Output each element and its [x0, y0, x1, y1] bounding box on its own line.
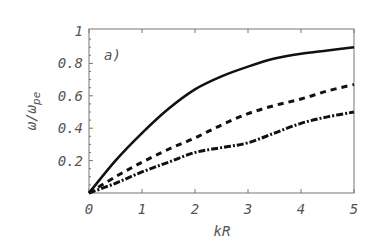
data-lines: [89, 47, 354, 193]
series-dash-dot: [89, 112, 354, 193]
y-tick-label: 1: [75, 23, 83, 39]
chart: 0123450.20.40.60.81 a) kR ω/ωpe: [0, 0, 381, 244]
x-tick-label: 0: [85, 201, 93, 217]
y-tick-label: 0.6: [58, 88, 83, 104]
x-tick-label: 3: [243, 201, 252, 217]
y-tick-label: 0.2: [58, 153, 83, 169]
x-tick-label: 1: [138, 201, 146, 217]
x-tick-label: 4: [297, 201, 305, 217]
x-axis-title: kR: [214, 223, 231, 239]
y-axis-title: ω/ωpe: [23, 91, 43, 130]
x-tick-label: 2: [191, 201, 199, 217]
panel-label: a): [104, 47, 121, 63]
x-tick-label: 5: [350, 201, 358, 217]
y-tick-label: 0.4: [58, 120, 83, 136]
y-tick-label: 0.8: [58, 55, 83, 71]
